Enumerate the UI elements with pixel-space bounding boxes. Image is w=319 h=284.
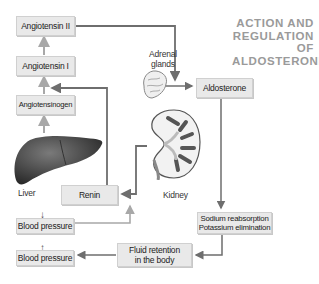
potassium-elimination-text: Potassium elimination — [199, 223, 271, 233]
aldosterone-box: Aldosterone — [196, 78, 253, 98]
diagram-title: ACTION AND REGULATION OF ALDOSTERONE — [232, 17, 314, 67]
sodium-potassium-box: Sodium reabsorption Potassium eliminatio… — [197, 212, 272, 234]
angiotensin-i-box: Angiotensin I — [16, 56, 75, 76]
fluid-retention-line-1: Fluid retention — [129, 245, 180, 255]
title-line-2: REGULATION OF — [232, 30, 314, 55]
adrenal-gland-icon — [138, 66, 174, 102]
adrenal-label-line-1: Adrenal — [148, 49, 178, 59]
title-line-3: ALDOSTERONE — [232, 55, 314, 68]
sodium-reabsorption-text: Sodium reabsorption — [200, 214, 268, 224]
renin-box: Renin — [61, 185, 118, 205]
blood-pressure-high-box: Blood pressure — [16, 250, 74, 266]
fluid-retention-line-2: in the body — [135, 255, 174, 265]
angiotensin-ii-box: Angiotensin II — [16, 16, 75, 36]
fluid-retention-box: Fluid retention in the body — [117, 243, 192, 267]
title-line-1: ACTION AND — [232, 17, 314, 30]
liver-icon — [10, 130, 105, 190]
kidney-icon — [146, 108, 202, 180]
kidney-label: Kidney — [163, 190, 188, 200]
blood-pressure-low-box: Blood pressure — [16, 218, 74, 234]
liver-label: Liver — [18, 188, 35, 198]
angiotensinogen-box: Angiotensinogen — [16, 95, 75, 115]
